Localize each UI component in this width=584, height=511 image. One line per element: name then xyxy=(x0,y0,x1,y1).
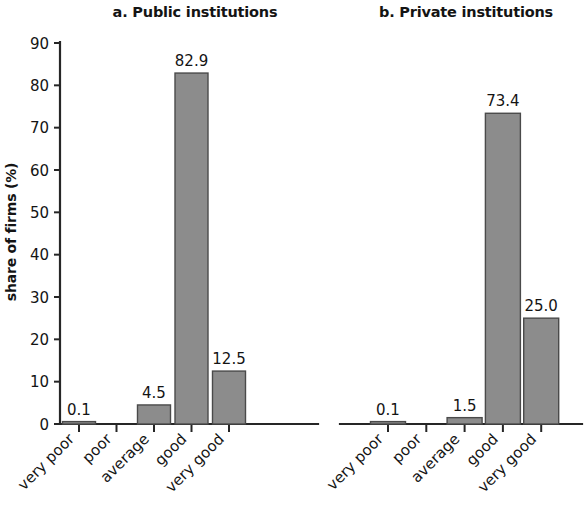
y-axis-label: share of firms (%) xyxy=(3,163,19,301)
bar xyxy=(175,73,208,424)
bar-value-label: 12.5 xyxy=(212,350,245,368)
y-tick-label: 70 xyxy=(30,119,49,137)
bar xyxy=(447,418,482,424)
bar-value-label: 1.5 xyxy=(453,397,477,415)
y-tick-label: 60 xyxy=(30,162,49,180)
bar xyxy=(371,422,406,424)
bar xyxy=(524,318,559,424)
bar-value-label: 73.4 xyxy=(486,92,519,110)
bar-value-label: 4.5 xyxy=(142,384,166,402)
panel-a-title: a. Public institutions xyxy=(113,4,278,20)
bar-value-label: 25.0 xyxy=(524,297,557,315)
y-tick-label: 10 xyxy=(30,373,49,391)
bar-value-label: 0.1 xyxy=(376,401,400,419)
panel-b-title: b. Private institutions xyxy=(379,4,553,20)
y-tick-label: 80 xyxy=(30,77,49,95)
bar xyxy=(485,113,520,424)
y-tick-label: 50 xyxy=(30,204,49,222)
bar xyxy=(138,405,171,424)
bar-chart-figure: a. Public institutions b. Private instit… xyxy=(0,0,584,511)
y-tick-label: 20 xyxy=(30,331,49,349)
y-tick-label: 40 xyxy=(30,246,49,264)
bar-value-label: 82.9 xyxy=(175,52,208,70)
y-tick-label: 90 xyxy=(30,35,49,53)
bar xyxy=(63,422,96,424)
bar-value-label: 0.1 xyxy=(67,401,91,419)
y-tick-label: 0 xyxy=(39,416,49,434)
bar xyxy=(213,371,246,424)
y-tick-label: 30 xyxy=(30,289,49,307)
